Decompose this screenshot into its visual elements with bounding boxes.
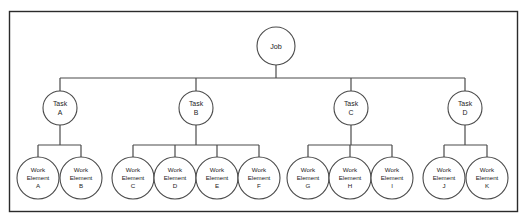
task-a-to-work-elements-connectors — [38, 125, 81, 157]
task-a-node-circle[interactable] — [43, 91, 77, 125]
we-e-label-line3: E — [215, 182, 219, 189]
node-task-a[interactable]: Task A — [43, 91, 77, 125]
we-d-label-line1: Work — [168, 166, 183, 173]
job-to-tasks-connectors — [60, 65, 465, 91]
node-task-d[interactable]: Task D — [448, 91, 482, 125]
we-k-label-line1: Work — [480, 166, 495, 173]
job-node-label: Job — [270, 42, 282, 51]
we-j-label-line1: Work — [437, 166, 452, 173]
task-a-label-line2: A — [58, 109, 63, 116]
node-work-element-k[interactable]: Work Element K — [466, 157, 508, 199]
task-b-to-work-elements-connectors — [133, 125, 259, 157]
we-k-label-line2: Element — [476, 174, 499, 181]
task-c-to-work-elements-connectors — [308, 125, 392, 157]
task-c-label-line2: C — [349, 109, 354, 116]
node-work-element-f[interactable]: Work Element F — [238, 157, 280, 199]
we-b-label-line2: Element — [70, 174, 93, 181]
we-j-label-line2: Element — [433, 174, 456, 181]
we-i-label-line1: Work — [385, 166, 400, 173]
node-task-b[interactable]: Task B — [179, 91, 213, 125]
task-b-label-line1: Task — [189, 100, 204, 107]
we-h-label-line1: Work — [343, 166, 358, 173]
we-b-label-line3: B — [79, 182, 83, 189]
we-a-label-line2: Element — [27, 174, 50, 181]
task-d-to-work-elements-connectors — [444, 125, 487, 157]
task-c-label-line1: Task — [344, 100, 359, 107]
task-c-node-circle[interactable] — [334, 91, 368, 125]
we-g-label-line3: G — [306, 182, 311, 189]
task-d-label-line2: D — [463, 109, 468, 116]
node-work-element-i[interactable]: Work Element I — [371, 157, 413, 199]
work-breakdown-structure-diagram: Job Task A Task B Task C Task D Work Ele… — [0, 0, 529, 223]
we-i-label-line2: Element — [381, 174, 404, 181]
task-d-label-line1: Task — [458, 100, 473, 107]
node-work-element-h[interactable]: Work Element H — [329, 157, 371, 199]
we-g-label-line1: Work — [301, 166, 316, 173]
node-work-element-g[interactable]: Work Element G — [287, 157, 329, 199]
node-task-c[interactable]: Task C — [334, 91, 368, 125]
node-work-element-b[interactable]: Work Element B — [60, 157, 102, 199]
we-h-label-line2: Element — [339, 174, 362, 181]
task-d-node-circle[interactable] — [448, 91, 482, 125]
we-c-label-line3: C — [131, 182, 136, 189]
node-job[interactable]: Job — [257, 27, 295, 65]
node-work-element-c[interactable]: Work Element C — [112, 157, 154, 199]
task-a-label-line1: Task — [53, 100, 68, 107]
node-work-element-e[interactable]: Work Element E — [196, 157, 238, 199]
we-e-label-line2: Element — [206, 174, 229, 181]
we-b-label-line1: Work — [74, 166, 89, 173]
we-f-label-line2: Element — [248, 174, 271, 181]
we-j-label-line3: J — [442, 182, 445, 189]
we-g-label-line2: Element — [297, 174, 320, 181]
we-d-label-line2: Element — [164, 174, 187, 181]
task-b-node-circle[interactable] — [179, 91, 213, 125]
we-e-label-line1: Work — [210, 166, 225, 173]
node-work-element-a[interactable]: Work Element A — [17, 157, 59, 199]
diagram-canvas: Job Task A Task B Task C Task D Work Ele… — [0, 0, 529, 223]
task-b-label-line2: B — [194, 109, 199, 116]
we-a-label-line1: Work — [31, 166, 46, 173]
we-c-label-line2: Element — [122, 174, 145, 181]
we-f-label-line1: Work — [252, 166, 267, 173]
we-i-label-line3: I — [391, 182, 393, 189]
node-work-element-d[interactable]: Work Element D — [154, 157, 196, 199]
we-f-label-line3: F — [257, 182, 261, 189]
node-work-element-j[interactable]: Work Element J — [423, 157, 465, 199]
we-d-label-line3: D — [173, 182, 178, 189]
we-h-label-line3: H — [348, 182, 352, 189]
we-c-label-line1: Work — [126, 166, 141, 173]
